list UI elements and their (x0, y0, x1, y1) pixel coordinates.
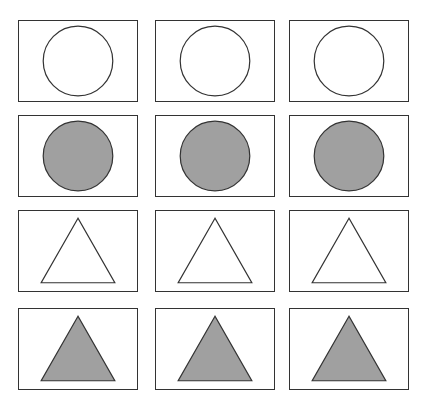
filled-triangle-icon (290, 309, 408, 389)
shape-cell (155, 115, 275, 197)
filled-circle-icon (156, 116, 274, 196)
shape-cell (18, 20, 138, 102)
empty-triangle-icon (290, 211, 408, 291)
shape-cell (289, 115, 409, 197)
empty-circle-icon (19, 21, 137, 101)
shape-cell (289, 20, 409, 102)
shape-cell (155, 308, 275, 390)
filled-circle-icon (19, 116, 137, 196)
filled-circle-icon (290, 116, 408, 196)
filled-triangle-icon (156, 309, 274, 389)
filled-triangle-icon (19, 309, 137, 389)
shape-cell (289, 308, 409, 390)
shape-cell (289, 210, 409, 292)
empty-circle-icon (156, 21, 274, 101)
empty-triangle-icon (19, 211, 137, 291)
empty-circle-icon (290, 21, 408, 101)
shape-cell (155, 20, 275, 102)
shape-cell (18, 308, 138, 390)
shape-cell (155, 210, 275, 292)
shape-cell (18, 115, 138, 197)
shape-cell (18, 210, 138, 292)
empty-triangle-icon (156, 211, 274, 291)
